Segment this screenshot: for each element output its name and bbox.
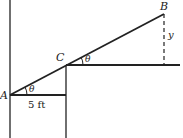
point-label-b: B	[159, 0, 168, 13]
geometry-diagram: A C B y θ θ 5 ft	[0, 0, 183, 138]
angle-label-theta-c: θ	[85, 54, 91, 64]
angle-arc-c	[81, 57, 83, 65]
angle-arc-a	[25, 87, 27, 95]
height-label-y: y	[167, 29, 174, 40]
point-label-a: A	[0, 89, 8, 102]
dimension-label-5ft: 5 ft	[28, 99, 45, 110]
angle-label-theta-a: θ	[29, 84, 35, 94]
point-label-c: C	[56, 51, 65, 64]
